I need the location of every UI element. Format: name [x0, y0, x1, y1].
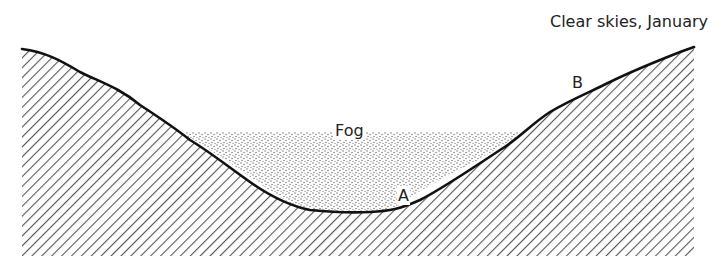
fog-label: Fog: [333, 121, 366, 140]
diagram-title: Clear skies, January: [550, 12, 708, 31]
point-b-label: B: [572, 73, 583, 92]
point-a-label: A: [397, 186, 410, 205]
